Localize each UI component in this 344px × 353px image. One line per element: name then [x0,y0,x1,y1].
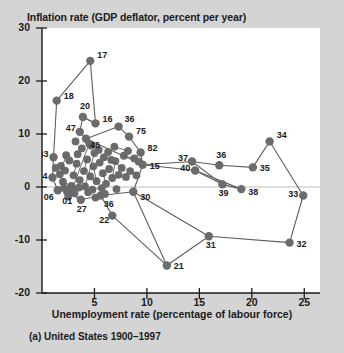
svg-text:27: 27 [77,204,87,214]
svg-text:01: 01 [62,196,72,206]
svg-text:37: 37 [178,153,188,163]
y-tick-label: -10 [4,233,30,245]
svg-text:44: 44 [42,171,48,181]
svg-text:20: 20 [80,101,90,111]
y-tick-label: -20 [4,286,30,298]
svg-text:34: 34 [277,130,287,140]
y-tick-label: 10 [4,127,30,139]
svg-text:39: 39 [218,188,228,198]
svg-text:18: 18 [64,91,74,101]
svg-text:35: 35 [260,163,270,173]
svg-text:31: 31 [206,240,216,250]
x-tick-label: 10 [135,296,159,308]
svg-text:75: 75 [136,126,146,136]
svg-text:47: 47 [66,123,76,133]
x-axis-title: Unemployment rate (percentage of labour … [0,308,344,320]
svg-text:22: 22 [99,215,109,225]
svg-text:32: 32 [297,239,307,249]
x-tick-label: 20 [240,296,264,308]
y-tick-label: 0 [4,180,30,192]
svg-text:15: 15 [150,161,160,171]
y-tick-label: 30 [4,21,30,33]
svg-text:36: 36 [104,199,114,209]
plot-area: 1718201647463675824344150601273630222131… [42,28,320,293]
scatter-plot-svg: 1718201647463675824344150601273630222131… [42,28,320,293]
svg-text:43: 43 [42,149,49,159]
svg-text:36: 36 [216,150,226,160]
svg-text:16: 16 [103,114,113,124]
svg-text:36: 36 [125,114,135,124]
point-labels: 1718201647463675824344150601273630222131… [42,50,307,272]
svg-text:33: 33 [288,189,298,199]
svg-text:46: 46 [90,140,100,150]
x-tick-label: 5 [82,296,106,308]
y-axis-title: Inflation rate (GDP deflator, percent pe… [27,11,246,23]
svg-text:17: 17 [97,50,107,60]
figure-caption: (a) United States 1900–1997 [29,331,161,342]
x-tick-label: 25 [292,296,316,308]
svg-text:38: 38 [248,187,258,197]
svg-text:30: 30 [140,192,150,202]
svg-text:06: 06 [44,192,54,202]
svg-text:82: 82 [148,143,158,153]
x-tick-label: 15 [187,296,211,308]
y-tick-label: 20 [4,74,30,86]
svg-text:21: 21 [174,261,184,271]
svg-text:40: 40 [180,163,190,173]
figure-panel: Inflation rate (GDP deflator, percent pe… [0,0,344,353]
